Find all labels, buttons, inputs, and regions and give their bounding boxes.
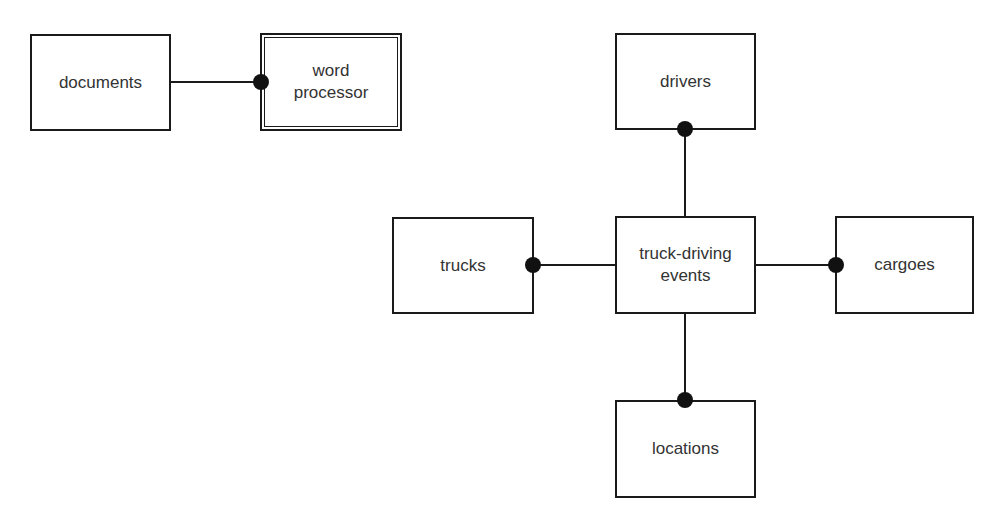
entity-trucks: trucks [392,217,534,314]
entity-locations: locations [615,400,756,498]
entity-label: trucks [440,255,485,277]
entity-word-processor: word processor [260,33,402,131]
entity-cargoes: cargoes [835,216,974,314]
entity-label: word processor [286,60,376,104]
entity-label: documents [59,72,142,94]
entity-label: locations [652,438,719,460]
entity-label: drivers [660,71,711,93]
entity-label: cargoes [874,254,934,276]
entity-label: truck-driving events [628,243,743,287]
entity-documents: documents [30,34,171,131]
entity-truck-driving-events: truck-driving events [615,216,756,314]
entity-drivers: drivers [615,33,756,130]
